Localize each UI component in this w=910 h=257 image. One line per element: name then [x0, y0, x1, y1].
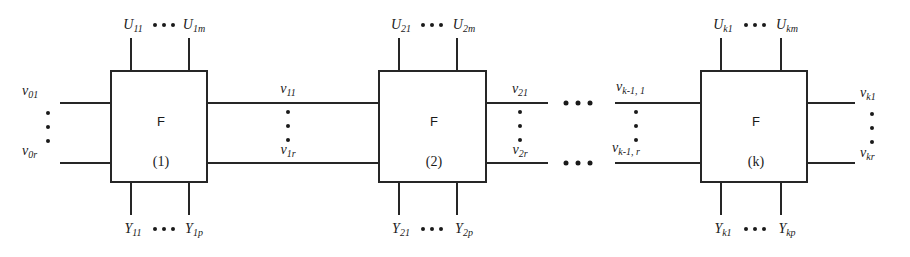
block-k-left-vertical-ellipsis	[634, 110, 638, 142]
block-k-bottom-ellipsis	[744, 227, 766, 231]
block-k-top-stub-first	[720, 38, 722, 70]
block-1-left-input-last-label: v0r	[22, 144, 37, 160]
interconnect-1-wire-last	[208, 162, 378, 164]
block-k-right-vertical-ellipsis	[870, 112, 874, 144]
block-k-top-stub-last	[780, 38, 782, 70]
block-1-bottom-ellipsis	[153, 227, 175, 231]
block-k-left-input-first-label: vk-1, 1	[616, 80, 645, 96]
block-2-bottom-output-first-label: Y21	[392, 222, 410, 238]
block-1-bottom-output-first-label: Y11	[124, 222, 141, 238]
block-k-bottom-output-first-label: Yk1	[714, 222, 731, 238]
block-1-index-label: (1)	[153, 154, 169, 170]
block-k-right-output-first-label: vk1	[860, 86, 876, 102]
block-1-left-wire-last	[60, 162, 110, 164]
interconnect-1-vertical-ellipsis	[286, 110, 290, 142]
block-2-bottom-stub-last	[456, 183, 458, 215]
block-k-right-wire-last	[808, 162, 855, 164]
block-2-function-label: F	[430, 114, 438, 129]
interconnect-1-label-first: v11	[280, 82, 295, 98]
interconnect-2-wire-last	[487, 162, 548, 164]
block-1-top-input-first-label: U11	[123, 18, 142, 34]
block-1-box: F (1)	[110, 70, 208, 183]
block-k-left-input-last-label: vk-1, r	[612, 141, 640, 157]
stage-gap-ellipsis-bottom	[564, 161, 593, 166]
block-k-left-wire-first	[615, 102, 700, 104]
block-1-top-stub-first	[130, 38, 132, 70]
block-2-top-stub-last	[456, 38, 458, 70]
block-1-top-stub-last	[188, 38, 190, 70]
interconnect-2-label-last: v2r	[512, 143, 527, 159]
block-1-left-input-first-label: v01	[22, 84, 38, 100]
block-k-bottom-stub-first	[720, 183, 722, 215]
block-k-box: F (k)	[700, 70, 808, 183]
block-1-bottom-output-last-label: Y1p	[185, 222, 203, 238]
block-2-index-label: (2)	[426, 154, 442, 170]
block-2-box: F (2)	[378, 70, 487, 183]
block-1-bottom-stub-first	[130, 183, 132, 215]
block-2-bottom-output-last-label: Y2p	[455, 222, 473, 238]
block-1-top-input-last-label: U1m	[183, 18, 205, 34]
cascade-block-diagram: U11 U1m F (1) v01 v0r Y11 Y1p v11 v1r U2…	[0, 0, 910, 257]
block-1-left-wire-first	[60, 102, 110, 104]
block-2-top-ellipsis	[421, 23, 443, 27]
block-k-top-input-first-label: Uk1	[713, 18, 733, 34]
block-2-top-stub-first	[398, 38, 400, 70]
interconnect-2-label-first: v21	[512, 82, 528, 98]
block-2-bottom-stub-first	[398, 183, 400, 215]
interconnect-1-wire-first	[208, 102, 378, 104]
block-1-bottom-stub-last	[188, 183, 190, 215]
block-k-top-ellipsis	[744, 23, 766, 27]
block-1-function-label: F	[157, 114, 165, 129]
block-2-top-input-last-label: U2m	[453, 18, 475, 34]
block-k-index-label: (k)	[748, 154, 764, 170]
block-1-left-vertical-ellipsis	[46, 111, 50, 143]
block-k-bottom-stub-last	[780, 183, 782, 215]
block-k-bottom-output-last-label: Ykp	[778, 222, 795, 238]
block-k-right-wire-first	[808, 102, 855, 104]
interconnect-1-label-last: v1r	[280, 143, 295, 159]
block-k-left-wire-last	[615, 162, 700, 164]
block-2-top-input-first-label: U21	[391, 18, 411, 34]
block-2-bottom-ellipsis	[421, 227, 443, 231]
block-k-function-label: F	[752, 114, 760, 129]
block-1-top-ellipsis	[153, 23, 175, 27]
block-k-right-output-last-label: vkr	[860, 146, 875, 162]
interconnect-2-wire-first	[487, 102, 548, 104]
block-k-top-input-last-label: Ukm	[776, 18, 798, 34]
stage-gap-ellipsis-top	[564, 101, 593, 106]
interconnect-2-vertical-ellipsis	[518, 110, 522, 142]
